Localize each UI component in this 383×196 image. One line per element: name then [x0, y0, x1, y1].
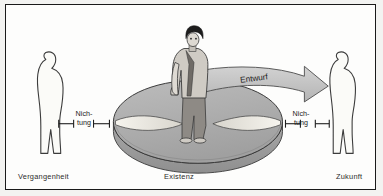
silhouette-past-body: [37, 52, 63, 154]
caption-vergangenheit: Vergangenheit: [18, 172, 69, 181]
diagram-canvas: [6, 5, 375, 189]
nichtung-label-right-line2: tung: [293, 119, 310, 128]
person-face: [187, 33, 199, 47]
diagram-root: Nich- tung Nich- tung Entwurf Vergangenh…: [0, 0, 383, 196]
person-shoe-right: [194, 138, 206, 143]
caption-zukunft: Zukunft: [336, 172, 362, 181]
person-shoe-left: [180, 138, 192, 143]
person-trousers: [182, 96, 206, 140]
caption-existenz: Existenz: [164, 172, 194, 181]
silhouette-future-body: [330, 52, 356, 154]
person-eye-left: [190, 38, 192, 40]
nichtung-label-left-line2: tung: [76, 119, 93, 128]
nichtung-label-right: Nich- tung: [293, 110, 310, 127]
person-eye-right: [195, 38, 197, 40]
silhouette-past: [37, 52, 63, 154]
diagram-frame: Nich- tung Nich- tung Entwurf Vergangenh…: [5, 4, 376, 190]
silhouette-future: [330, 52, 356, 154]
nichtung-label-left: Nich- tung: [76, 110, 93, 127]
